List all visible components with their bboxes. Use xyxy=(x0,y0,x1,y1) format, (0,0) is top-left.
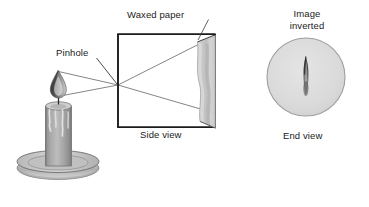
diagram-canvas xyxy=(0,0,369,207)
candle-flame xyxy=(50,71,66,99)
candle-top-well xyxy=(51,104,67,109)
inverted-flame-base-glow xyxy=(303,81,308,96)
side-view-label: Side view xyxy=(140,129,182,140)
pinhole-label: Pinhole xyxy=(56,47,88,58)
waxed-paper-leader-line xyxy=(198,20,209,41)
image-inverted-line-1: Image xyxy=(284,8,330,20)
ray-upper-to-lower xyxy=(59,72,217,114)
pinhole-camera-figure: Waxed paper Pinhole Side view Image inve… xyxy=(0,0,369,207)
wax-drip-2 xyxy=(55,111,56,127)
image-inverted-label: Image inverted xyxy=(284,8,330,31)
pinhole-leader-line xyxy=(97,58,118,84)
end-view xyxy=(267,38,345,116)
ray-lower-to-upper xyxy=(58,36,217,97)
candle xyxy=(17,71,99,180)
waxed-paper-screen xyxy=(197,35,215,129)
candle-body xyxy=(46,102,72,166)
end-view-label: End view xyxy=(283,130,322,141)
waxed-paper-label: Waxed paper xyxy=(127,9,184,20)
image-inverted-line-2: inverted xyxy=(284,20,330,32)
